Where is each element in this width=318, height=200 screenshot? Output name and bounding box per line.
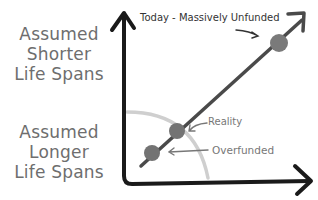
annotation-reality: Reality [208,116,242,127]
reality-pointer-arrow-icon [189,123,207,131]
point-reality [169,123,185,139]
funding-diagram [0,0,318,200]
annotation-overfunded: Overfunded [212,144,274,156]
point-today [270,34,288,52]
reality-arc [127,112,208,178]
annotation-today-massively-unfunded: Today - Massively Unfunded [140,12,280,23]
today-pointer-arrow-icon [236,30,258,38]
point-overfunded [144,145,160,161]
